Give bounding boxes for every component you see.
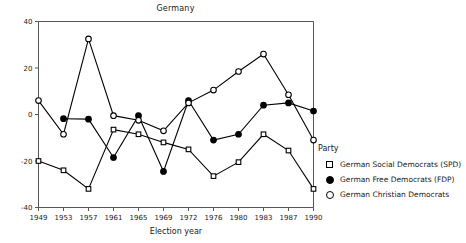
data-point-marker [111,155,117,161]
data-point-marker [61,168,66,173]
data-point-marker [261,102,267,108]
svg-text:1953: 1953 [55,214,73,222]
legend-item-label: German Social Democrats (SPD) [340,160,461,169]
data-point-marker [136,132,141,137]
svg-text:0: 0 [28,111,32,119]
data-point-marker [161,169,167,175]
x-axis-ticks: 1949195319571961196519691972197619801983… [30,208,323,222]
data-point-marker [36,159,41,164]
data-point-marker [86,187,91,192]
x-axis-label: Election year [150,227,203,236]
open-square-icon [326,161,340,168]
legend: Party German Social Democrats (SPD) Germ… [318,144,461,202]
data-point-marker [61,116,67,122]
svg-text:1976: 1976 [205,214,223,222]
series-line [39,130,314,189]
data-point-marker [311,108,317,114]
filled-circle-icon [326,176,340,184]
data-point-marker [261,51,267,57]
y-axis-ticks: -40-2002040 [21,18,38,212]
svg-text:1972: 1972 [180,214,198,222]
svg-text:1980: 1980 [230,214,248,222]
legend-item-label: German Free Democrats (FDP) [340,175,455,184]
data-point-marker [136,118,142,124]
data-point-marker [211,174,216,179]
data-point-marker [111,113,117,119]
svg-text:1969: 1969 [155,214,173,222]
svg-text:1987: 1987 [280,214,298,222]
svg-text:1990: 1990 [305,214,323,222]
data-point-marker [111,127,116,132]
svg-text:1961: 1961 [105,214,123,222]
data-point-marker [86,36,92,42]
data-point-marker [236,69,242,75]
svg-text:1949: 1949 [30,214,48,222]
data-point-marker [36,98,42,104]
data-point-marker [161,128,167,134]
data-point-marker [311,137,317,143]
chart-plot-area: -40-2002040 1949195319571961196519691972… [0,0,466,243]
series-line [39,39,314,140]
data-point-marker [236,160,241,165]
legend-item-spd[interactable]: German Social Democrats (SPD) [318,157,461,172]
chart-series-group [36,36,317,191]
data-point-marker [261,132,266,137]
data-point-marker [61,131,67,137]
data-point-marker [286,100,292,106]
svg-text:-40: -40 [21,204,32,212]
data-point-marker [186,147,191,152]
svg-text:20: 20 [24,65,33,73]
data-point-marker [86,116,92,122]
data-point-marker [286,92,292,98]
data-point-marker [211,87,217,93]
data-point-marker [311,187,316,192]
open-circle-icon [326,191,340,199]
data-point-marker [161,140,166,145]
legend-item-fdp[interactable]: German Free Democrats (FDP) [318,172,461,187]
legend-item-cdu[interactable]: German Christian Democrats [318,187,461,202]
legend-title: Party [318,144,461,153]
chart-page: Germany -40-2002040 19491953195719611965… [0,0,466,243]
data-point-marker [186,100,192,106]
svg-text:1983: 1983 [255,214,273,222]
chart-axes [39,22,314,208]
svg-text:-20: -20 [21,158,32,166]
series-line [64,101,314,172]
svg-text:40: 40 [24,18,33,26]
svg-text:1965: 1965 [130,214,148,222]
data-point-marker [286,148,291,153]
data-point-marker [211,137,217,143]
svg-text:1957: 1957 [80,214,98,222]
legend-item-label: German Christian Democrats [340,190,449,199]
data-point-marker [236,131,242,137]
